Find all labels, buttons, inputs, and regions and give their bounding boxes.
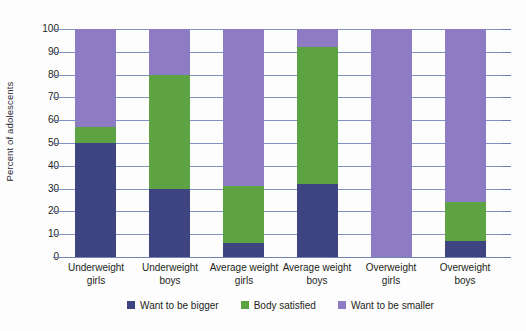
gridline-50 — [59, 143, 502, 144]
bar-segment[interactable] — [149, 75, 190, 189]
legend-item-label: Want to be smaller — [351, 300, 434, 311]
bar-segment[interactable] — [223, 186, 264, 243]
bar-segment[interactable] — [223, 29, 264, 186]
legend-item[interactable]: Body satisfied — [241, 300, 316, 311]
x-axis-label: Overweightboys — [428, 261, 502, 287]
bar-segment[interactable] — [223, 243, 264, 257]
gridline-0 — [59, 257, 502, 258]
bar-group[interactable] — [371, 29, 412, 257]
gridline-60 — [59, 120, 502, 121]
right-tick-mark-30 — [502, 189, 511, 190]
bar-group[interactable] — [223, 29, 264, 257]
gridline-30 — [59, 189, 502, 190]
legend-swatch-icon — [241, 301, 249, 309]
bar-segment[interactable] — [149, 189, 190, 257]
legend-item[interactable]: Want to be smaller — [338, 300, 434, 311]
gridline-100 — [59, 29, 502, 30]
bar-group[interactable] — [297, 29, 338, 257]
gridline-80 — [59, 75, 502, 76]
bar-segment[interactable] — [75, 127, 116, 143]
right-tick-mark-20 — [502, 211, 511, 212]
right-tick-mark-80 — [502, 75, 511, 76]
bar-segment[interactable] — [297, 184, 338, 257]
right-axis-ticks — [502, 29, 511, 257]
plot-area — [59, 29, 502, 257]
bar-segment[interactable] — [445, 241, 486, 257]
bar-group[interactable] — [75, 29, 116, 257]
x-axis-label: Underweightboys — [133, 261, 207, 287]
legend-swatch-icon — [338, 301, 346, 309]
right-tick-mark-50 — [502, 143, 511, 144]
bar-group[interactable] — [445, 29, 486, 257]
x-axis-label: Underweightgirls — [59, 261, 133, 287]
right-tick-mark-100 — [502, 29, 511, 30]
y-axis-ticks: 0102030405060708090100 — [16, 29, 59, 257]
bar-segment[interactable] — [149, 29, 190, 75]
gridline-40 — [59, 166, 502, 167]
right-tick-mark-40 — [502, 166, 511, 167]
bar-segment[interactable] — [75, 143, 116, 257]
legend-swatch-icon — [127, 301, 135, 309]
x-axis-label: Average weightboys — [280, 261, 354, 287]
bar-segment[interactable] — [75, 29, 116, 127]
bar-segment[interactable] — [297, 29, 338, 47]
stacked-bar-chart: Percent of adolescents 01020304050607080… — [0, 0, 526, 331]
right-tick-mark-90 — [502, 52, 511, 53]
legend-item[interactable]: Want to be bigger — [127, 300, 219, 311]
right-tick-mark-10 — [502, 234, 511, 235]
x-axis-labels: UnderweightgirlsUnderweightboysAverage w… — [59, 261, 502, 295]
bar-segment[interactable] — [445, 29, 486, 202]
chart-legend: Want to be biggerBody satisfiedWant to b… — [59, 297, 502, 313]
gridline-70 — [59, 97, 502, 98]
right-tick-mark-60 — [502, 120, 511, 121]
x-axis-label: Overweightgirls — [354, 261, 428, 287]
x-axis-label: Average weightgirls — [207, 261, 281, 287]
gridline-10 — [59, 234, 502, 235]
bar-segment[interactable] — [371, 29, 412, 257]
bar-segment[interactable] — [445, 202, 486, 241]
gridline-90 — [59, 52, 502, 53]
bar-segment[interactable] — [297, 47, 338, 184]
bar-group[interactable] — [149, 29, 190, 257]
legend-item-label: Want to be bigger — [140, 300, 219, 311]
right-tick-mark-0 — [502, 257, 511, 258]
y-axis-title-text: Percent of adolescents — [5, 81, 16, 181]
right-tick-mark-70 — [502, 97, 511, 98]
gridline-20 — [59, 211, 502, 212]
legend-item-label: Body satisfied — [254, 300, 316, 311]
